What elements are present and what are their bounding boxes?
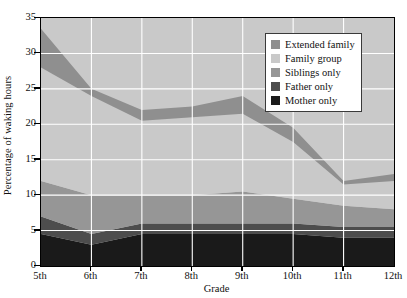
chart-legend: Extended familyFamily groupSiblings only… [265,33,362,112]
y-tick-label-30: 30 [14,47,36,57]
legend-item-father-only[interactable]: Father only [271,79,355,93]
x-tick-label-6th: 6th [84,270,97,281]
y-tick-mark-35 [34,17,40,19]
y-tick-label-15: 15 [14,154,36,164]
y-tick-mark-25 [34,87,40,89]
legend-item-mother-only[interactable]: Mother only [271,93,355,107]
y-tick-mark-5 [34,229,40,231]
y-tick-mark-20 [34,123,40,125]
x-axis-title: Grade [40,283,393,294]
x-tick-label-9th: 9th [235,270,248,281]
y-axis-tick-labels: 05101520253035 [14,0,36,298]
x-tick-label-5th: 5th [33,270,46,281]
x-tick-label-7th: 7th [134,270,147,281]
x-tick-mark-11th [342,266,344,271]
x-tick-label-11th: 11th [333,270,351,281]
legend-item-label: Siblings only [285,67,341,78]
x-tick-mark-9th [241,266,243,271]
legend-swatch-icon [271,68,280,77]
y-tick-mark-10 [34,194,40,196]
y-tick-label-5: 5 [14,225,36,235]
legend-item-extended-family[interactable]: Extended family [271,37,355,51]
y-tick-label-35: 35 [14,12,36,22]
y-tick-label-25: 25 [14,83,36,93]
legend-swatch-icon [271,82,280,91]
legend-item-label: Mother only [285,95,337,106]
legend-item-label: Father only [285,81,333,92]
legend-swatch-icon [271,54,280,63]
legend-item-label: Extended family [285,39,355,50]
x-tick-label-10th: 10th [283,270,302,281]
chart-figure: Percentage of waking hours 0510152025303… [0,0,407,298]
legend-swatch-icon [271,96,280,105]
legend-swatch-icon [271,40,280,49]
y-tick-label-0: 0 [14,260,36,270]
x-tick-mark-8th [191,266,193,271]
x-tick-label-12th: 12th [384,270,403,281]
x-tick-label-8th: 8th [185,270,198,281]
y-tick-label-20: 20 [14,118,36,128]
legend-item-label: Family group [285,53,342,64]
y-tick-label-10: 10 [14,189,36,199]
x-tick-mark-10th [292,266,294,271]
x-tick-mark-7th [140,266,142,271]
x-tick-mark-6th [90,266,92,271]
y-tick-mark-15 [34,158,40,160]
legend-item-family-group[interactable]: Family group [271,51,355,65]
y-tick-mark-0 [34,265,40,267]
y-axis-title-text: Percentage of waking hours [3,75,14,195]
legend-item-siblings-only[interactable]: Siblings only [271,65,355,79]
y-tick-mark-30 [34,52,40,54]
